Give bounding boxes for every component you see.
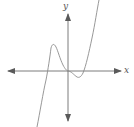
y-axis-down-arrow-icon [65,114,71,122]
cubic-function-graph: y x [0,0,134,127]
plot-canvas [0,0,134,127]
x-axis-left-arrow-icon [7,68,15,74]
x-axis-right-arrow-icon [114,68,122,74]
x-axis-label: x [124,66,129,75]
y-axis-label: y [63,2,68,11]
y-axis-up-arrow-icon [65,13,71,21]
